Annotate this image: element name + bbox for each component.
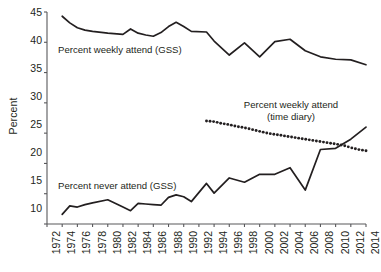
time-diary-dot [322,141,325,144]
time-diary-dot [304,138,307,141]
annotation-weekly-attend-gss: Percent weekly attend (GSS) [58,44,182,56]
time-diary-dot [209,120,212,123]
time-diary-dot [216,121,219,124]
time-diary-dot [205,120,208,123]
time-diary-dot [297,137,300,140]
time-diary-dot [343,144,346,147]
time-diary-dot [287,135,290,138]
time-diary-dot [283,134,286,137]
time-diary-dot [219,122,222,125]
series-dots-weekly-attend-time-diary [205,120,367,153]
time-diary-dot [318,140,321,143]
time-diary-dot [276,133,279,136]
time-diary-dot [223,122,226,125]
time-diary-dot [361,149,364,152]
time-diary-dot [365,149,368,152]
time-diary-dot [315,140,318,143]
time-diary-dot [294,136,297,139]
time-diary-dot [230,124,233,127]
time-diary-dot [340,143,343,146]
time-diary-dot [258,130,261,133]
time-diary-dot [251,128,254,131]
time-diary-dot [255,129,258,132]
time-diary-dot [272,133,275,136]
time-diary-dot [347,145,350,148]
time-diary-dot [311,139,314,142]
series-line-weekly-attend-gss [62,16,366,64]
series-line-never-attend-gss [62,127,366,214]
time-diary-dot [301,137,304,140]
time-diary-dot [262,131,265,134]
time-diary-dot [308,138,311,141]
time-diary-dot [333,142,336,145]
time-diary-dot [357,148,360,151]
time-diary-dot [279,134,282,137]
annotation-time-diary-line1: Percent weekly attend [244,99,338,110]
time-diary-dot [326,141,329,144]
time-diary-dot [226,123,229,126]
time-diary-dot [240,126,243,129]
time-diary-dot [350,146,353,149]
time-diary-dot [329,142,332,145]
time-diary-dot [248,127,251,130]
time-diary-dot [212,120,215,123]
time-diary-dot [237,125,240,128]
time-diary-dot [336,143,339,146]
time-diary-dot [244,126,247,129]
time-diary-dot [265,132,268,135]
time-diary-dot [290,136,293,139]
time-diary-dot [269,132,272,135]
time-diary-dot [354,147,357,150]
annotation-weekly-attend-time-diary: Percent weekly attend (time diary) [233,99,349,122]
annotation-time-diary-line2: (time diary) [233,111,349,123]
annotation-never-attend-gss: Percent never attend (GSS) [58,180,176,192]
time-diary-dot [233,125,236,128]
